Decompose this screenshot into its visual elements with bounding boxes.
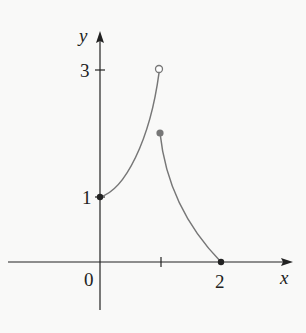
chart-svg: y 3 1 0 2 x bbox=[0, 0, 306, 333]
chart-figure: y 3 1 0 2 x bbox=[0, 0, 306, 333]
y-axis-label: y bbox=[77, 25, 88, 46]
x-axis-label: x bbox=[279, 267, 289, 288]
y-tick-label-3: 3 bbox=[80, 60, 90, 81]
open-point-1-3 bbox=[156, 66, 163, 73]
x-tick-label-2: 2 bbox=[215, 271, 225, 292]
origin-label: 0 bbox=[84, 269, 94, 290]
left-curve bbox=[100, 73, 159, 197]
right-curve bbox=[160, 133, 221, 262]
filled-point-1-2 bbox=[156, 129, 163, 136]
y-tick-label-1: 1 bbox=[82, 187, 92, 208]
filled-point-0-1 bbox=[97, 194, 103, 200]
filled-point-2-0 bbox=[218, 259, 224, 265]
